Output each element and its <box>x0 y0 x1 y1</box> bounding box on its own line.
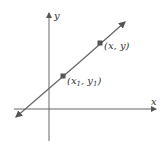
x-axis-label: x <box>151 96 157 107</box>
point-x-y-label: (x, y) <box>104 40 130 51</box>
line-diagram: y x (x1, y1) (x, y) <box>0 0 165 152</box>
point-x1-y1-marker <box>61 74 66 79</box>
y-axis-label: y <box>53 10 60 21</box>
point-x1-y1-label: (x1, y1) <box>67 75 102 88</box>
point-x-y-marker <box>98 41 103 46</box>
